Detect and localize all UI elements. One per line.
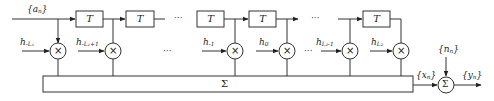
coefficient-label-2: h-L₁+1	[76, 38, 99, 48]
ellipsis-top-2: ···	[311, 14, 320, 23]
delay-block-3: T	[197, 14, 224, 24]
summation-block-label: Σ	[221, 79, 228, 89]
coefficient-label-1: h-L₁	[20, 38, 34, 48]
noise-adder: Σ	[442, 80, 448, 89]
output-sequence-label: {yn}	[462, 71, 482, 81]
multiplier-1: ×	[54, 46, 62, 56]
diagram-canvas: {an} T T T T T ··· ··· ··· ··· h-L₁ h-L₁…	[0, 0, 494, 101]
delay-block-4: T	[249, 14, 276, 24]
ellipsis-mid-1: ···	[163, 47, 172, 56]
ellipsis-top-1: ···	[174, 14, 183, 23]
delay-block-5: T	[363, 14, 390, 24]
coefficient-label-6: hL₂	[371, 38, 383, 48]
multiplier-2: ×	[109, 46, 117, 56]
multiplier-5: ×	[346, 46, 354, 56]
multiplier-4: ×	[283, 46, 291, 56]
delay-block-1: T	[76, 14, 103, 24]
coefficient-label-5: hL₂-1	[316, 38, 334, 48]
delay-block-2: T	[126, 14, 154, 24]
multiplier-6: ×	[397, 46, 405, 56]
ellipsis-mid-2: ···	[304, 47, 313, 56]
diagram-wires	[0, 0, 494, 101]
input-sequence-label: {an}	[27, 5, 48, 15]
filter-output-label: {xn}	[416, 71, 436, 81]
coefficient-label-3: h-1	[203, 38, 215, 48]
noise-label: {nn}	[438, 45, 459, 55]
multiplier-3: ×	[231, 46, 239, 56]
coefficient-label-4: h0	[259, 38, 269, 48]
